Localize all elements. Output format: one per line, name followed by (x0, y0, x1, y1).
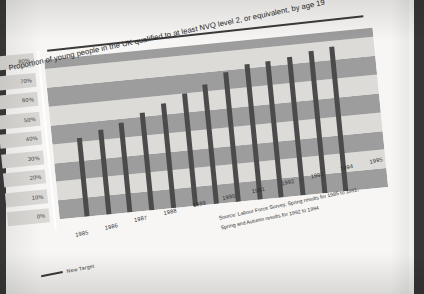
y-axis-tick-label: 30% (1, 150, 44, 168)
page-edge-right (414, 0, 424, 294)
y-axis-tick-label: 0% (7, 209, 50, 227)
x-axis-tick-label: 1987 (134, 215, 148, 224)
y-axis-tick-label: 20% (3, 170, 46, 188)
y-axis-tick-label: 50% (0, 111, 40, 129)
x-axis-tick-label: 1988 (163, 207, 177, 216)
legend-label-new-target: New Target (66, 263, 95, 274)
bar-chart: 80%70%60%50%40%30%20%10%0% 1985198619871… (0, 0, 408, 286)
scanned-page: 80%70%60%50%40%30%20%10%0% 1985198619871… (0, 0, 424, 294)
y-axis-tick-label: 40% (0, 131, 42, 149)
legend-line-swatch (41, 271, 63, 277)
x-axis-tick-label: 1985 (75, 229, 89, 238)
y-axis-tick-label: 60% (0, 92, 39, 110)
x-axis-tick-label: 1989 (192, 200, 206, 209)
x-axis-tick-label: 1986 (104, 222, 118, 231)
y-axis-tick-label: 70% (0, 72, 37, 90)
chart-legend: New Target (41, 263, 95, 280)
y-axis-tick-label: 10% (5, 189, 48, 207)
